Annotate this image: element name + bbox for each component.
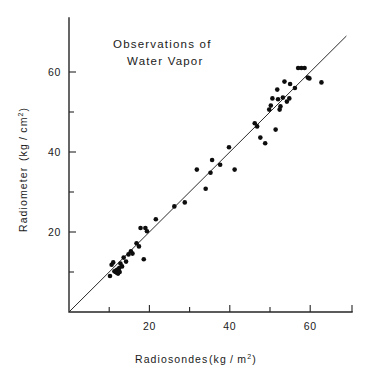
data-point <box>302 66 307 71</box>
y-axis-title-main: Radiometer <box>17 167 29 232</box>
y-units-post: ) <box>17 107 29 112</box>
data-point <box>258 135 263 140</box>
data-point <box>124 259 129 264</box>
identity-reference-line <box>69 36 346 312</box>
x-units-post: ) <box>252 353 257 365</box>
x-axis-title-main: Radiosondes <box>135 353 208 365</box>
y-tick-label: 20 <box>48 226 61 238</box>
x-axis-title: Radiosondes (kg / m2) <box>135 353 257 365</box>
data-point <box>145 229 150 234</box>
data-point <box>208 171 213 176</box>
data-point <box>232 167 237 172</box>
chart-title-line-1: Observations of <box>113 38 212 50</box>
data-point <box>172 204 177 209</box>
data-point <box>120 264 125 269</box>
x-axis-title-units: (kg / m2) <box>209 353 257 365</box>
data-point <box>218 163 223 168</box>
data-point <box>287 96 292 101</box>
data-point <box>203 187 208 192</box>
data-point <box>275 87 280 92</box>
y-axis-title: Radiometer (kg / cm2) <box>17 107 29 232</box>
chart-title: Observations of Water Vapor <box>113 38 212 67</box>
y-axis-title-units: (kg / cm2) <box>17 107 29 161</box>
data-point <box>270 96 275 101</box>
data-point <box>182 200 187 205</box>
data-point <box>137 244 142 249</box>
data-point <box>307 76 312 81</box>
data-point <box>130 251 135 256</box>
data-point <box>138 226 143 231</box>
data-point <box>269 103 274 108</box>
data-point <box>195 167 200 172</box>
data-point <box>263 141 268 146</box>
x-tick-label: 20 <box>143 320 156 332</box>
data-point <box>117 270 122 275</box>
data-point <box>108 274 113 279</box>
data-point <box>210 158 215 163</box>
data-point <box>282 79 287 84</box>
y-tick-label: 40 <box>48 146 61 158</box>
data-point <box>227 145 232 150</box>
data-point <box>273 127 278 132</box>
x-units-pre: (kg / m <box>209 353 247 365</box>
data-point <box>121 255 126 260</box>
data-point <box>154 217 159 222</box>
data-point <box>141 257 146 262</box>
x-tick-label: 40 <box>223 320 236 332</box>
data-point <box>281 95 286 100</box>
chart-title-line-2: Water Vapor <box>127 55 203 67</box>
data-points <box>108 66 324 279</box>
scatter-plot-figure: 204060204060 Observations of Water Vapor… <box>0 0 372 384</box>
y-units-pre: (kg / cm <box>17 116 29 161</box>
data-point <box>111 260 116 265</box>
data-point <box>278 104 283 109</box>
data-point <box>276 97 281 102</box>
data-point <box>255 124 260 129</box>
y-tick-label: 60 <box>48 66 61 78</box>
plot-canvas: 204060204060 Observations of Water Vapor… <box>0 0 372 384</box>
data-point <box>293 86 298 91</box>
data-point <box>267 107 272 112</box>
x-tick-label: 60 <box>304 320 317 332</box>
data-point <box>319 80 324 85</box>
data-point <box>288 82 293 87</box>
axis-lines <box>69 18 352 312</box>
